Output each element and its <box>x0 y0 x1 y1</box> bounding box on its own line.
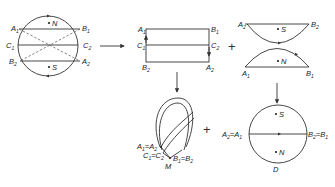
label-a2: A2 <box>237 20 246 30</box>
plus-operator: + <box>203 122 211 137</box>
label-b1: B1 <box>82 24 90 34</box>
label-b2: B2 <box>9 57 17 67</box>
disk-d-name-label: D <box>273 165 279 174</box>
mobius-panel: A1=A2 C1=C2 B1=B2 M <box>136 98 194 171</box>
label-a1: A1 <box>137 25 146 35</box>
label-a1: A1 <box>10 24 19 34</box>
pole-s-label: S <box>279 110 284 119</box>
label-a2: A2 <box>81 57 90 67</box>
label-c2: C2 <box>211 41 219 51</box>
cap-top-arc <box>247 24 309 43</box>
label-b1: B1 <box>211 25 219 35</box>
mobius-name-label: M <box>165 162 172 171</box>
mobius-strand <box>163 118 194 153</box>
label-b2: B2 <box>142 63 150 73</box>
label-b1-eq-b2: B1=B2 <box>173 154 193 164</box>
label-b2-eq-b1: B2=B1 <box>308 130 328 140</box>
label-b1: B1 <box>306 69 314 79</box>
pole-n-label: N <box>281 57 287 66</box>
label-a2-eq-a1: A2=A1 <box>221 130 242 140</box>
arrow-icon <box>278 42 281 45</box>
plus-operator: + <box>228 39 236 54</box>
label-c2: C2 <box>83 41 91 51</box>
arrow-icon <box>295 53 299 56</box>
rectangle-boundary <box>146 29 209 62</box>
pole-s-label: S <box>52 63 57 72</box>
label-c1: C1 <box>137 41 145 51</box>
arrow-icon <box>46 75 49 78</box>
arrow-icon <box>47 15 50 18</box>
label-b2: B2 <box>311 20 319 30</box>
topology-diagram: N S A1 B1 C1 C2 B2 A2 A1 B1 C1 C2 B2 A2 … <box>0 0 335 187</box>
pole-n-label: N <box>52 19 58 28</box>
mobius-outer-loop <box>156 98 193 147</box>
label-a1: A1 <box>241 69 250 79</box>
projective-disk-panel: S N A2=A1 B2=B1 D <box>221 105 328 174</box>
cap-bottom-arc <box>245 49 309 68</box>
pole-n-label: N <box>279 148 285 157</box>
disk-panel: N S A1 B1 C1 C2 B2 A2 <box>6 15 91 78</box>
label-c1: C1 <box>6 41 14 51</box>
arrow-icon <box>278 133 281 136</box>
rectangle-panel: A1 B1 C1 C2 B2 A2 <box>137 25 219 73</box>
caps-panel: S A2 B2 N A1 B1 <box>237 20 319 79</box>
pole-s-label: S <box>281 25 286 34</box>
label-a2: A2 <box>205 63 214 73</box>
label-c1-eq-c2: C1=C2 <box>143 151 164 161</box>
